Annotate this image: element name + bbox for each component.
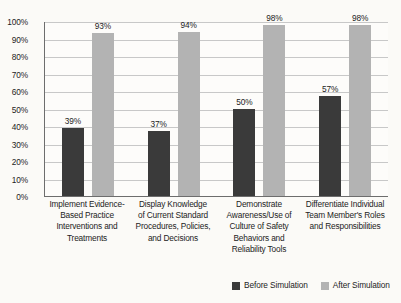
bar-value-label: 37% (150, 120, 166, 129)
bar-group: 39%93% (45, 22, 131, 196)
bar-value-label: 39% (65, 117, 81, 126)
bar-after[interactable]: 98% (349, 25, 371, 197)
y-axis-tick-label: 10% (0, 176, 28, 184)
plot-wrap: 39%93%37%94%50%98%57%98% 100%90%80%70%60… (44, 22, 388, 197)
x-axis-label-line: Team Member's Roles (303, 210, 387, 221)
y-axis-tick-label: 100% (0, 18, 28, 26)
y-axis-tick-label: 50% (0, 106, 28, 114)
y-axis-tick-label: 70% (0, 71, 28, 79)
x-axis-label-line: Differentiate Individual (303, 199, 387, 210)
x-axis-label-line: Based Practice (45, 210, 129, 221)
bar-value-label: 98% (266, 14, 282, 23)
y-axis-tick-label: 90% (0, 36, 28, 44)
x-axis-label-line: and Responsibilities (303, 221, 387, 232)
bar-group: 50%98% (217, 22, 303, 196)
bar-value-label: 50% (236, 98, 252, 107)
x-axis-label-line: Reliability Tools (217, 244, 301, 255)
plot-area: 39%93%37%94%50%98%57%98% (44, 22, 388, 197)
bar-before[interactable]: 57% (319, 96, 341, 196)
x-axis-label-line: Implement Evidence- (45, 199, 129, 210)
legend-label: After Simulation (333, 281, 390, 290)
y-axis-tick-label: 80% (0, 53, 28, 61)
bar-value-label: 93% (95, 22, 111, 31)
x-axis-label-line: Awareness/Use of (217, 210, 301, 221)
x-axis-label-line: Demonstrate (217, 199, 301, 210)
bar-after[interactable]: 94% (178, 32, 200, 197)
bar-before[interactable]: 50% (233, 109, 255, 197)
bar-group: 57%98% (302, 22, 388, 196)
x-axis-category-label: Implement Evidence-Based PracticeInterve… (44, 199, 130, 255)
bar-before[interactable]: 39% (62, 128, 84, 196)
bar-before[interactable]: 37% (148, 131, 170, 196)
x-axis-category-label: DemonstrateAwareness/Use ofCulture of Sa… (216, 199, 302, 255)
bar-after[interactable]: 93% (92, 33, 114, 196)
x-axis-category-labels: Implement Evidence-Based PracticeInterve… (44, 199, 388, 255)
x-axis-category-label: Differentiate IndividualTeam Member's Ro… (302, 199, 388, 255)
bar-group: 37%94% (131, 22, 217, 196)
legend-swatch-icon (232, 282, 240, 290)
bar-value-label: 57% (322, 85, 338, 94)
y-axis-tick-label: 0% (0, 193, 28, 201)
x-axis-category-label: Display Knowledgeof Current StandardProc… (130, 199, 216, 255)
y-axis-tick-label: 30% (0, 141, 28, 149)
legend-item[interactable]: After Simulation (321, 281, 390, 290)
bar-groups: 39%93%37%94%50%98%57%98% (45, 22, 388, 196)
chart-legend: Before SimulationAfter Simulation (232, 281, 390, 290)
bar-value-label: 94% (180, 21, 196, 30)
legend-swatch-icon (321, 282, 329, 290)
x-axis-label-line: Behaviors and (217, 233, 301, 244)
bar-value-label: 98% (352, 14, 368, 23)
y-axis-tick-label: 20% (0, 158, 28, 166)
x-axis-label-line: Interventions and (45, 221, 129, 232)
bar-after[interactable]: 98% (263, 25, 285, 197)
legend-item[interactable]: Before Simulation (232, 281, 308, 290)
y-axis-tick-label: 60% (0, 88, 28, 96)
y-axis-tick-label: 40% (0, 123, 28, 131)
x-axis-label-line: Display Knowledge (131, 199, 215, 210)
x-axis-label-line: of Current Standard (131, 210, 215, 221)
bar-chart: 39%93%37%94%50%98%57%98% 100%90%80%70%60… (0, 0, 401, 303)
x-axis-label-line: Culture of Safety (217, 221, 301, 232)
x-axis-label-line: Treatments (45, 233, 129, 244)
legend-label: Before Simulation (244, 281, 308, 290)
x-axis-label-line: Procedures, Policies, (131, 221, 215, 232)
x-axis-label-line: and Decisions (131, 233, 215, 244)
